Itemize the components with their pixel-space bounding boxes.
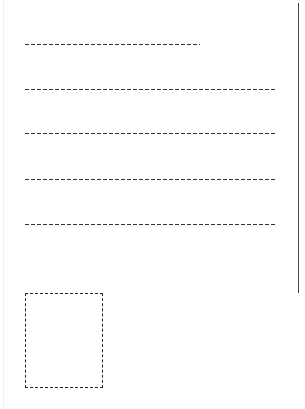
address-line-3 [25, 133, 277, 134]
vertical-divider [298, 3, 299, 293]
address-line-2 [25, 89, 277, 90]
postcard-back [0, 0, 305, 409]
address-line-1 [25, 44, 200, 45]
page-edge [3, 0, 4, 409]
address-line-4 [25, 179, 277, 180]
stamp-placeholder-box [25, 293, 103, 388]
address-line-5 [25, 224, 277, 225]
